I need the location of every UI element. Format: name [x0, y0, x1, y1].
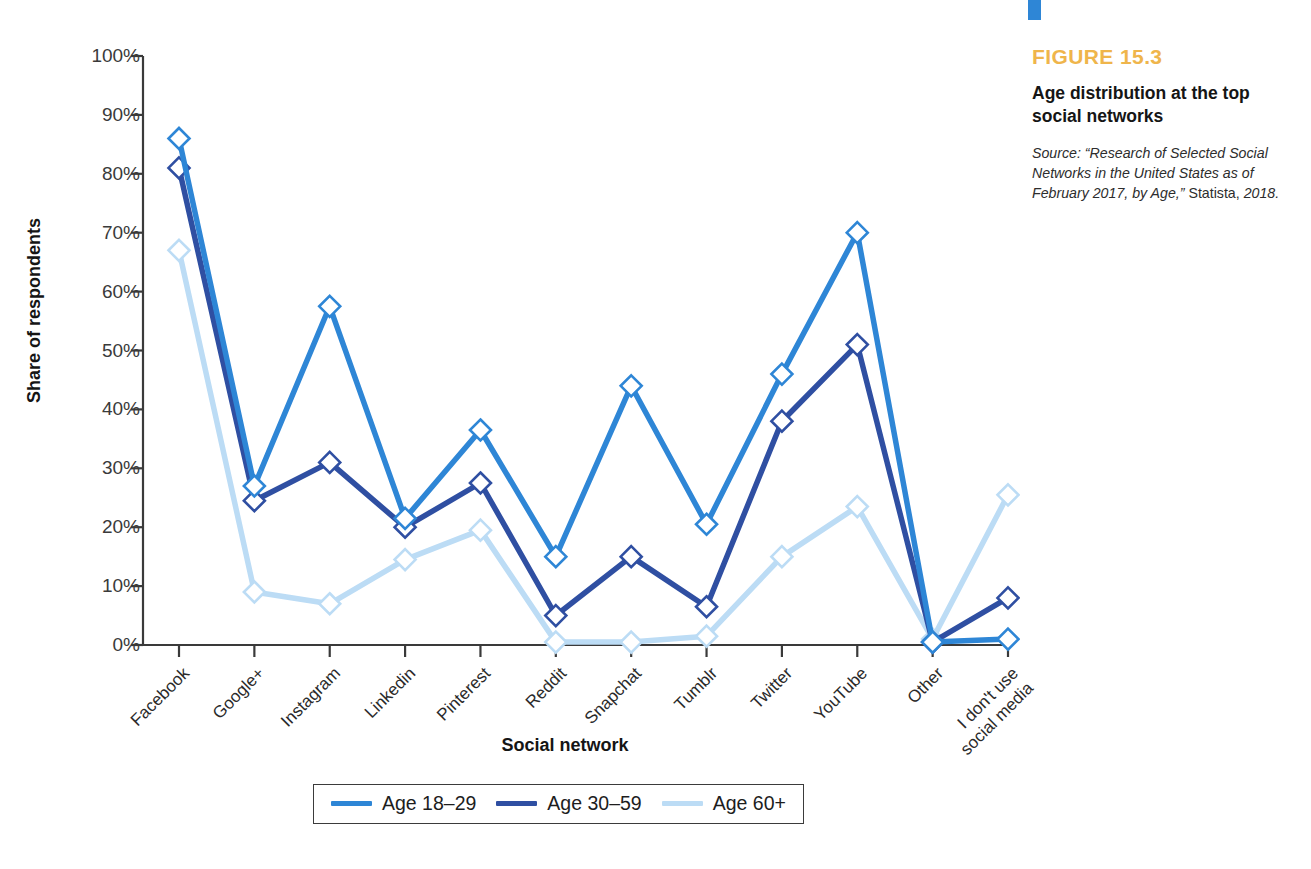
legend-swatch: [331, 801, 372, 807]
legend-swatch: [496, 801, 537, 807]
figure-caption: FIGURE 15.3 Age distribution at the top …: [1032, 45, 1294, 203]
legend-item: Age 30–59: [496, 792, 641, 815]
source-publisher: Statista,: [1188, 185, 1243, 201]
legend-swatch: [662, 801, 703, 807]
legend-item: Age 18–29: [331, 792, 476, 815]
figure-number: FIGURE 15.3: [1032, 45, 1294, 69]
y-axis-title: Share of respondents: [24, 181, 45, 441]
source-year: 2018.: [1244, 185, 1280, 201]
chart-container: 0%10%20%30%40%50%60%70%80%90%100% Facebo…: [0, 0, 1020, 869]
legend-label: Age 18–29: [382, 792, 476, 815]
chart-legend: Age 18–29Age 30–59Age 60+: [313, 784, 804, 824]
legend-label: Age 30–59: [547, 792, 641, 815]
figure-title: Age distribution at the top social netwo…: [1032, 82, 1294, 129]
accent-square-icon: [1028, 0, 1041, 20]
x-axis-title: Social network: [455, 735, 675, 756]
figure-page: 0%10%20%30%40%50%60%70%80%90%100% Facebo…: [0, 0, 1311, 869]
legend-label: Age 60+: [713, 792, 786, 815]
figure-source: Source: “Research of Selected Social Net…: [1032, 143, 1294, 203]
legend-item: Age 60+: [662, 792, 786, 815]
